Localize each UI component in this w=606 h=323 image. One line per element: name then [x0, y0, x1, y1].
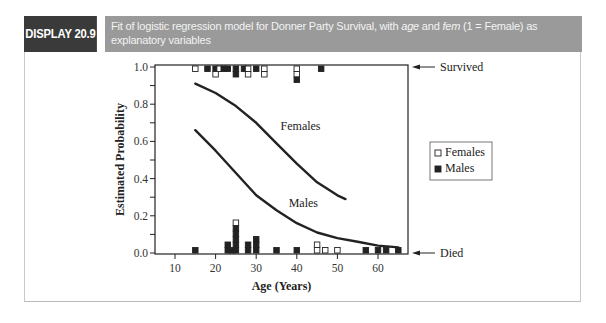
female-observation-marker — [322, 248, 328, 254]
female-observation-marker — [335, 248, 341, 254]
legend-label-females: Females — [445, 145, 485, 159]
male-observation-marker — [294, 248, 300, 254]
female-observation-marker — [294, 66, 300, 72]
x-tick-label: 20 — [210, 262, 222, 274]
y-axis-title: Estimated Probability — [113, 103, 127, 216]
male-observation-marker — [318, 66, 324, 72]
male-observation-marker — [233, 248, 239, 254]
male-observation-marker — [233, 226, 239, 232]
fitted-curve-males — [195, 130, 398, 247]
annotation-survived: Survived — [440, 60, 483, 74]
y-tick-label: 0.2 — [134, 210, 149, 222]
x-tick-label: 50 — [332, 262, 344, 274]
female-observation-marker — [294, 72, 300, 78]
arrow-left-icon — [412, 65, 420, 70]
female-observation-marker — [314, 242, 320, 248]
male-observation-marker — [375, 248, 381, 254]
male-observation-marker — [225, 242, 231, 248]
male-observation-marker — [253, 242, 259, 248]
male-observation-marker — [363, 248, 369, 254]
y-tick-label: 0.4 — [134, 173, 149, 185]
logistic-regression-chart: 0.00.20.40.60.81.0102030405060Age (Years… — [0, 0, 606, 323]
x-tick-label: 40 — [291, 262, 303, 274]
y-tick-label: 1.0 — [134, 61, 149, 73]
male-observation-marker — [193, 248, 199, 254]
female-observation-marker — [245, 72, 251, 78]
y-tick-label: 0.8 — [134, 98, 149, 110]
male-observation-marker — [245, 248, 251, 254]
male-observation-marker — [233, 66, 239, 72]
female-observation-marker — [193, 66, 199, 72]
female-observation-marker — [314, 248, 320, 254]
male-observation-marker — [253, 237, 259, 243]
y-tick-label: 0.6 — [134, 135, 149, 147]
male-observation-marker — [253, 248, 259, 254]
male-observation-marker — [253, 66, 259, 72]
female-observation-marker — [262, 72, 268, 78]
x-tick-label: 10 — [169, 262, 181, 274]
male-observation-marker — [233, 237, 239, 243]
plot-area-frame — [155, 65, 408, 254]
legend-label-males: Males — [445, 161, 475, 175]
filled-square-icon — [435, 166, 441, 172]
female-observation-marker — [213, 72, 219, 78]
male-observation-marker — [245, 242, 251, 248]
male-observation-marker — [205, 66, 211, 72]
arrow-left-icon — [412, 251, 420, 256]
male-observation-marker — [233, 231, 239, 237]
x-tick-label: 30 — [250, 262, 262, 274]
y-tick-label: 0.0 — [134, 247, 149, 259]
male-observation-marker — [233, 72, 239, 78]
male-observation-marker — [274, 248, 280, 254]
curve-label-males: Males — [289, 196, 319, 210]
male-observation-marker — [383, 248, 389, 254]
x-tick-label: 60 — [372, 262, 384, 274]
male-observation-marker — [294, 77, 300, 83]
curve-label-females: Females — [281, 119, 321, 133]
fitted-curve-females — [195, 84, 345, 199]
open-square-icon — [435, 150, 441, 156]
annotation-died: Died — [440, 246, 463, 260]
male-observation-marker — [396, 248, 402, 254]
female-observation-marker — [245, 66, 251, 72]
female-observation-marker — [262, 66, 268, 72]
x-axis-title: Age (Years) — [252, 279, 312, 293]
male-observation-marker — [225, 66, 231, 72]
male-observation-marker — [233, 242, 239, 248]
female-observation-marker — [233, 220, 239, 226]
